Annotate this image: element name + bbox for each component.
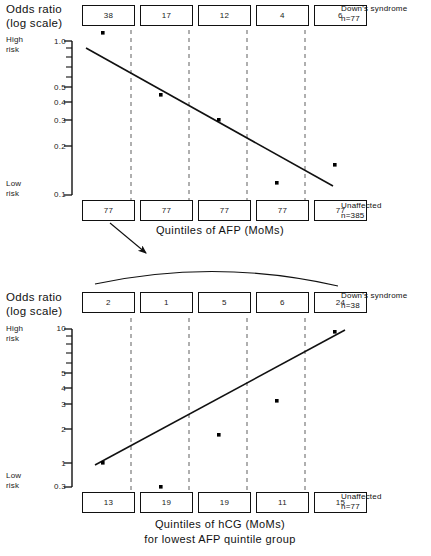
hcg-unaffected-count-box-3: 19	[198, 492, 251, 513]
hcg-x-axis-caption-line1: Quintiles of hCG (MoMs)	[80, 518, 360, 530]
hcg-downs-count-box-1: 2	[82, 292, 135, 313]
hcg-data-point-3	[217, 433, 221, 437]
hcg-unaffected-count-box-2: 19	[140, 492, 193, 513]
hcg-downs-count-box-3: 5	[198, 292, 251, 313]
hcg-data-point-5	[333, 330, 337, 334]
hcg-data-point-2	[159, 485, 163, 489]
hcg-x-axis-caption-line2: for lowest AFP quintile group	[80, 533, 360, 545]
hcg-downs-count-box-2: 1	[140, 292, 193, 313]
hcg-data-point-1	[101, 461, 105, 465]
hcg-downs-row-label-line2: n=38	[341, 301, 360, 311]
hcg-unaffected-count-box-4: 11	[256, 492, 309, 513]
hcg-plot-area	[0, 0, 431, 556]
hcg-unaffected-row-label-line2: n=77	[341, 502, 360, 512]
hcg-unaffected-row-label-line1: Unaffected	[341, 492, 382, 502]
hcg-unaffected-count-box-1: 13	[82, 492, 135, 513]
hcg-downs-row-label-line1: Down's syndrome	[341, 291, 407, 301]
hcg-downs-count-box-4: 6	[256, 292, 309, 313]
hcg-regression-line	[95, 330, 345, 465]
hcg-data-point-4	[275, 399, 279, 403]
